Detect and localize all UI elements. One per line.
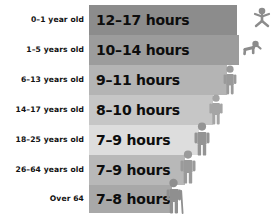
chart-row: Over 64 7–8 hours [0, 0, 279, 215]
age-label-6: Over 64 [0, 194, 84, 203]
hours-label-6: 7–8 hours [96, 191, 170, 207]
senior-with-cane-icon [165, 178, 187, 214]
sleep-duration-infographic: 0–1 year old 12–17 hours 1–5 years old 1… [0, 0, 279, 215]
